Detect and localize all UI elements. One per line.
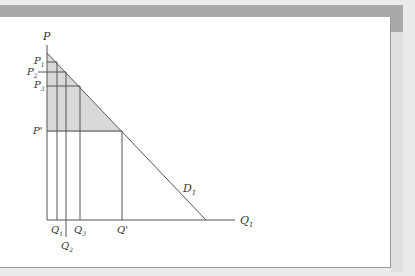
q1-label: Q1 xyxy=(51,224,63,237)
p2-label: P2 xyxy=(26,66,38,79)
q2-label: Q2 xyxy=(61,240,73,253)
pprime-label: P' xyxy=(32,125,42,136)
quantity-axis-label: Q1 xyxy=(240,214,254,229)
p3-label: P3 xyxy=(33,79,45,92)
p1-label: P1 xyxy=(33,55,45,68)
qprime-label: Q' xyxy=(117,224,128,235)
demand-label: D1 xyxy=(182,182,196,197)
q3-label: Q3 xyxy=(74,224,86,237)
price-axis-label: P xyxy=(42,30,51,43)
demand-diagram: P Q1 D1 P1 P2 P3 P' Q1 Q2 Q3 Q' xyxy=(0,0,415,276)
